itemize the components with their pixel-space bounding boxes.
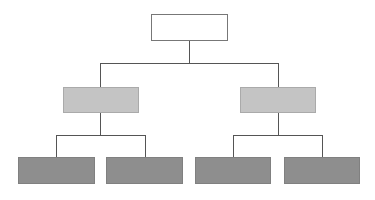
connector-to-leaf-2 [145, 135, 146, 157]
connector-left-child-down [100, 113, 101, 135]
leaf-3-label [196, 158, 270, 183]
leaf-node-1 [18, 157, 95, 184]
connector-right-child-down [278, 113, 279, 135]
leaf-node-4 [284, 157, 360, 184]
right-child-label [241, 88, 315, 112]
leaf-1-label [19, 158, 94, 183]
connector-level1-horizontal [100, 63, 279, 64]
leaf-node-3 [195, 157, 271, 184]
root-node-label [152, 15, 227, 40]
leaf-2-label [107, 158, 182, 183]
connector-left-horizontal [56, 135, 146, 136]
root-node [151, 14, 228, 41]
connector-to-leaf-1 [56, 135, 57, 157]
connector-to-left-child [100, 63, 101, 87]
leaf-node-2 [106, 157, 183, 184]
connector-to-leaf-3 [233, 135, 234, 157]
left-child-node [63, 87, 139, 113]
connector-root-down [189, 41, 190, 63]
connector-to-leaf-4 [322, 135, 323, 157]
connector-to-right-child [278, 63, 279, 87]
left-child-label [64, 88, 138, 112]
connector-right-horizontal [233, 135, 323, 136]
right-child-node [240, 87, 316, 113]
leaf-4-label [285, 158, 359, 183]
